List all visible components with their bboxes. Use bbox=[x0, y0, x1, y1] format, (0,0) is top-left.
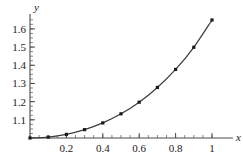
data-point-marker bbox=[192, 46, 195, 49]
x-tick-label: 0.6 bbox=[132, 142, 146, 154]
y-tick-label: 1.2 bbox=[12, 96, 26, 108]
data-point-marker bbox=[174, 68, 177, 71]
x-tick-label: 0.2 bbox=[60, 142, 74, 154]
x-axis-tick-labels: 0.20.40.60.81 bbox=[60, 142, 215, 154]
x-axis-label: x bbox=[235, 131, 241, 143]
x-tick-label: 1 bbox=[209, 142, 215, 154]
data-point-marker bbox=[83, 128, 86, 131]
data-point-marker bbox=[101, 121, 104, 124]
y-tick-label: 1.4 bbox=[12, 59, 26, 71]
chart-figure: 0.20.40.60.81 1.11.21.31.41.51.6 x y bbox=[0, 0, 243, 165]
y-tick-label: 1.5 bbox=[12, 41, 26, 53]
chart-plot-area: 0.20.40.60.81 1.11.21.31.41.51.6 x y bbox=[0, 0, 243, 165]
y-tick-label: 1.3 bbox=[12, 77, 26, 89]
data-point-marker bbox=[28, 136, 31, 139]
x-tick-label: 0.4 bbox=[96, 142, 110, 154]
data-point-marker bbox=[65, 133, 68, 136]
y-tick-label: 1.6 bbox=[12, 23, 26, 35]
data-point-marker bbox=[138, 101, 141, 104]
data-point-marker bbox=[47, 135, 50, 138]
x-tick-label: 0.8 bbox=[169, 142, 183, 154]
y-axis-tick-labels: 1.11.21.31.41.51.6 bbox=[12, 23, 26, 126]
y-tick-label: 1.1 bbox=[12, 114, 26, 126]
data-series-markers bbox=[28, 18, 213, 139]
data-series-curve bbox=[30, 20, 212, 138]
x-axis-major-ticks bbox=[66, 133, 212, 138]
data-point-marker bbox=[156, 86, 159, 89]
data-point-marker bbox=[119, 112, 122, 115]
data-point-marker bbox=[210, 18, 213, 21]
y-axis-label: y bbox=[33, 1, 39, 13]
